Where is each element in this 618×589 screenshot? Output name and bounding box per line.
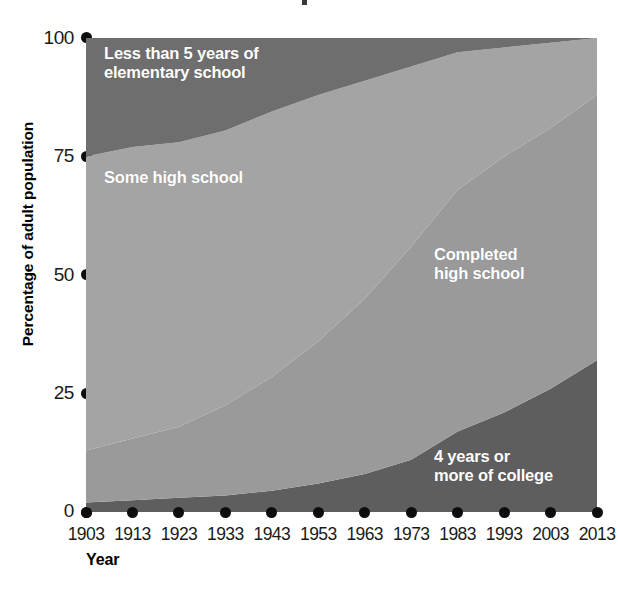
x-tick-marker-1923 — [173, 507, 184, 518]
x-tick-marker-1983 — [452, 507, 463, 518]
x-tick-marker-1963 — [359, 507, 370, 518]
x-tick-label-1943: 1943 — [249, 524, 295, 545]
x-axis-title: Year — [86, 551, 119, 569]
x-tick-label-1953: 1953 — [295, 524, 341, 545]
y-axis-title: Percentage of adult population — [19, 24, 37, 444]
x-tick-label-1903: 1903 — [63, 524, 109, 545]
x-tick-marker-1953 — [313, 507, 324, 518]
x-tick-label-1973: 1973 — [388, 524, 434, 545]
education-attainment-area-chart: Percentage of adult population 100 75 50… — [0, 0, 618, 589]
y-tick-label-75: 75 — [20, 145, 74, 167]
x-tick-label-2013: 2013 — [574, 524, 618, 545]
x-tick-marker-1973 — [406, 507, 417, 518]
y-tick-label-100: 100 — [20, 27, 74, 49]
x-tick-label-2003: 2003 — [528, 524, 574, 545]
x-tick-label-1933: 1933 — [202, 524, 248, 545]
x-tick-label-1923: 1923 — [156, 524, 202, 545]
x-tick-label-1963: 1963 — [342, 524, 388, 545]
x-tick-label-1913: 1913 — [109, 524, 155, 545]
y-tick-label-25: 25 — [20, 382, 74, 404]
x-tick-label-1993: 1993 — [481, 524, 527, 545]
band-label-some-high-school: Some high school — [104, 168, 243, 187]
x-tick-marker-1993 — [499, 507, 510, 518]
x-tick-marker-1943 — [266, 507, 277, 518]
cut-off-title-fragment — [302, 0, 307, 5]
y-tick-label-50: 50 — [20, 264, 74, 286]
y-tick-label-0: 0 — [20, 500, 74, 522]
x-tick-marker-1913 — [127, 507, 138, 518]
band-label-college: 4 years or more of college — [434, 447, 553, 486]
x-tick-marker-1903 — [81, 507, 92, 518]
x-tick-marker-2003 — [545, 507, 556, 518]
band-label-completed-high-school: Completed high school — [434, 245, 524, 284]
x-tick-label-1983: 1983 — [435, 524, 481, 545]
band-label-elementary: Less than 5 years of elementary school — [104, 44, 259, 83]
x-tick-marker-2013 — [592, 507, 603, 518]
x-tick-marker-1933 — [220, 507, 231, 518]
